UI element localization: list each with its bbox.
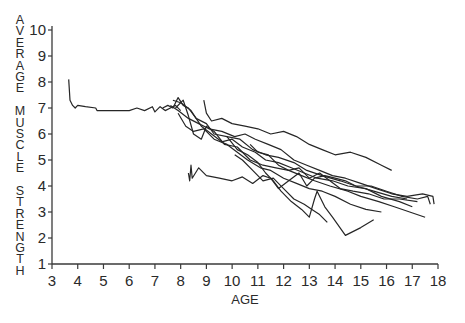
x-tick-label: 18	[430, 272, 447, 289]
muscle-strength-chart: AVERAGEMUSCLESTRENGTH 12345678910 345678…	[0, 0, 465, 323]
x-tick-label: 10	[224, 272, 241, 289]
series-line-subject-10	[235, 155, 328, 223]
series-line-subject-4	[176, 100, 426, 217]
x-tick-label: 4	[74, 272, 82, 289]
y-title-letter: E	[16, 81, 24, 95]
x-tick-label: 11	[250, 272, 266, 289]
x-tick-label: 16	[378, 272, 395, 289]
x-tick-label: 14	[327, 272, 344, 289]
x-tick-label: 5	[99, 272, 107, 289]
y-tick-label: 9	[38, 47, 46, 64]
plot-area	[69, 79, 434, 235]
x-tick-label: 15	[352, 272, 369, 289]
x-tick-label: 6	[125, 272, 133, 289]
series-line-subject-6	[170, 105, 434, 204]
x-tick-label: 3	[48, 272, 56, 289]
y-tick-label: 3	[38, 203, 46, 220]
x-axis: 3456789101112131415161718	[48, 264, 447, 289]
y-title-letter: H	[15, 264, 24, 278]
y-title-letter: E	[16, 161, 24, 175]
y-tick-label: 7	[38, 99, 46, 116]
x-tick-label: 12	[275, 272, 292, 289]
x-tick-label: 8	[176, 272, 184, 289]
y-tick-label: 10	[29, 21, 46, 38]
x-tick-label: 17	[404, 272, 421, 289]
x-tick-label: 7	[151, 272, 159, 289]
x-tick-label: 13	[301, 272, 318, 289]
y-tick-label: 2	[38, 229, 46, 246]
y-axis: 12345678910	[29, 21, 52, 272]
y-tick-label: 6	[38, 125, 46, 142]
y-tick-label: 1	[38, 255, 46, 272]
y-axis-title: AVERAGEMUSCLESTRENGTH	[15, 13, 25, 278]
y-tick-label: 4	[38, 177, 46, 194]
y-tick-label: 8	[38, 73, 46, 90]
y-tick-label: 5	[38, 151, 46, 168]
x-axis-title: AGE	[231, 292, 259, 307]
x-tick-label: 9	[202, 272, 210, 289]
